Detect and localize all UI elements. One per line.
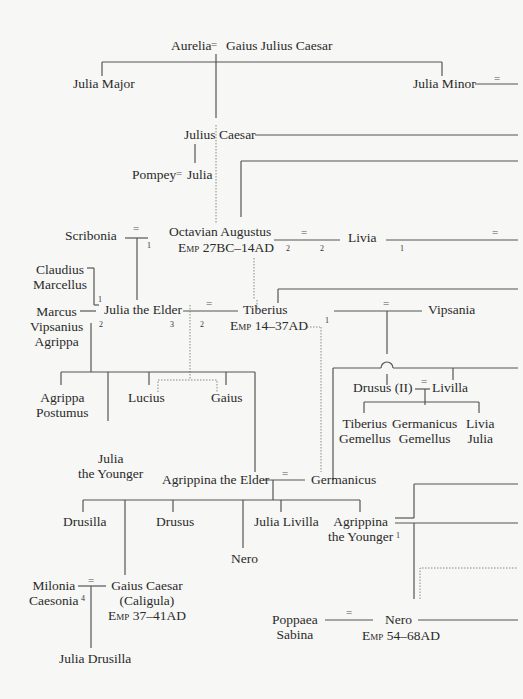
person-agrippina-the-younger[interactable]: Agrippina the Younger [328,514,393,544]
name-line: Caesonia [29,593,79,608]
person-gaius[interactable]: Gaius [211,390,243,405]
name-line: Marcus [30,304,83,319]
name-line: Claudius [33,262,87,277]
marriage-sign: = [346,606,352,618]
person-julia-the-elder[interactable]: Julia the Elder [104,302,182,317]
person-germanicus[interactable]: Germanicus [311,472,376,487]
marriage-number: 1 [147,241,151,250]
person-tiberius-gemellus[interactable]: Tiberius Gemellus [339,416,391,446]
name-line: Julia [466,431,495,446]
marriage-sign: = [282,467,288,479]
person-julia-major[interactable]: Julia Major [73,76,135,91]
person-nero-son-of-germanicus[interactable]: Nero [231,551,258,566]
marriage-sign: = [421,375,427,387]
name-line: Vipsanius [30,319,83,334]
person-livia[interactable]: Livia [348,230,377,245]
dotted-line [158,380,217,392]
person-agrippa-postumus[interactable]: Agrippa Postumus [36,390,89,420]
person-julia-the-younger[interactable]: Julia the Younger [78,451,143,481]
marriage-sign: = [206,297,212,309]
reign-dates: Emp 27BC–14AD [178,240,274,255]
person-drusus[interactable]: Drusus [156,514,194,529]
name-line: Poppaea [272,612,318,627]
person-germanicus-gemellus[interactable]: Germanicus Gemellus [392,416,457,446]
person-scribonia[interactable]: Scribonia [65,228,117,243]
marriage-number: 2 [286,244,290,253]
person-drusus-ii[interactable]: Drusus (II) [353,380,413,395]
marriage-sign: = [176,167,182,179]
name-line: Gemellus [392,431,457,446]
marriage-sign: = [494,72,500,84]
person-julia-minor[interactable]: Julia Minor [413,76,476,91]
person-livilla[interactable]: Livilla [432,380,468,395]
name-line: Tiberius [339,416,391,431]
name-line: Gemellus [339,431,391,446]
marriage-number: 1 [396,531,400,540]
person-milonia-caesonia[interactable]: Milonia Caesonia [29,578,79,608]
name-line: (Caligula) [108,593,186,608]
person-aurelia[interactable]: Aurelia [171,38,211,53]
marriage-number: 2 [200,320,204,329]
marriage-sign: = [88,574,94,586]
person-lucius[interactable]: Lucius [128,390,165,405]
dotted-line [420,568,518,599]
person-julia-livilla[interactable]: Julia Livilla [254,514,319,529]
person-octavian-augustus[interactable]: Octavian Augustus [169,224,271,239]
name-line: Agrippina [328,514,393,529]
bridge-arc [381,362,393,368]
marriage-sign: = [211,38,217,50]
marriage-sign: = [383,297,389,309]
person-caligula[interactable]: Gaius Caesar (Caligula) Emp 37–41AD [108,578,186,623]
reign-dates: Emp 37–41AD [108,608,186,623]
person-livia-julia[interactable]: Livia Julia [466,416,495,446]
person-julius-caesar[interactable]: Julius Caesar [184,127,256,142]
person-drusilla[interactable]: Drusilla [63,514,107,529]
person-julia-drusilla[interactable]: Julia Drusilla [59,651,131,666]
marriage-number: 1 [400,244,404,253]
reign-dates: Emp 14–37AD [230,318,308,333]
person-claudius-marcellus[interactable]: Claudius Marcellus [33,262,87,292]
marriage-sign: = [301,226,307,238]
marriage-sign: = [133,222,139,234]
marriage-number: 3 [170,320,174,329]
marriage-sign: = [492,226,498,238]
marriage-number: 1 [98,295,102,304]
person-poppaea-sabina[interactable]: Poppaea Sabina [272,612,318,642]
marriage-number: 2 [320,244,324,253]
name-line: Agrippa [30,334,83,349]
name-line: Marcellus [33,277,87,292]
marriage-number: 4 [81,594,85,603]
person-marcus-vipsanius-agrippa[interactable]: Marcus Vipsanius Agrippa [30,304,83,349]
name-line: the Younger [328,529,393,544]
name-line: Julia [78,451,143,466]
person-nero[interactable]: Nero [385,612,412,627]
reign-dates: Emp 54–68AD [362,628,440,643]
name-line: Agrippa [36,390,89,405]
name-line: Livia [466,416,495,431]
name-line: Germanicus [392,416,457,431]
name-line: Milonia [29,578,79,593]
name-line: the Younger [78,466,143,481]
person-vipsania[interactable]: Vipsania [428,302,475,317]
name-line: Gaius Caesar [108,578,186,593]
person-julia[interactable]: Julia [187,167,213,182]
person-tiberius[interactable]: Tiberius [243,302,288,317]
name-line: Sabina [272,627,318,642]
marriage-number: 1 [325,316,329,325]
person-pompey[interactable]: Pompey [132,167,176,182]
marriage-number: 2 [99,320,103,329]
person-agrippina-the-elder[interactable]: Agrippina the Elder [162,472,269,487]
name-line: Postumus [36,405,89,420]
person-gaius-julius-caesar[interactable]: Gaius Julius Caesar [226,38,332,53]
